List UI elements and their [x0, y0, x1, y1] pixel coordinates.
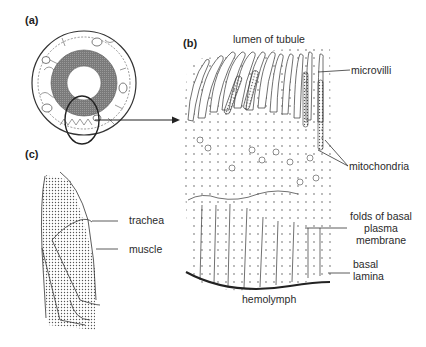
trachea-callout: trachea — [129, 214, 164, 226]
panel-label-a: (a) — [25, 14, 38, 26]
tubule-cross-section — [32, 31, 180, 144]
basal-lamina-line2: lamina — [353, 270, 384, 282]
folds-callout-line3: membrane — [345, 234, 417, 246]
panel-label-c: (c) — [25, 148, 38, 160]
epithelial-cell-detail — [182, 44, 350, 290]
mitochondria-callout: mitochondria — [349, 160, 409, 172]
muscle-callout: muscle — [129, 243, 162, 255]
lumen-label: lumen of tubule — [233, 33, 305, 45]
folds-callout: folds of basal plasma membrane — [345, 210, 417, 246]
panel-label-b: (b) — [183, 37, 197, 49]
folds-callout-line1: folds of basal — [345, 210, 417, 222]
microvilli-callout: microvilli — [351, 64, 391, 76]
basal-lamina-callout: basal lamina — [353, 258, 384, 282]
hemolymph-label: hemolymph — [242, 293, 296, 305]
basal-lamina-line1: basal — [353, 258, 384, 270]
trachea-muscle-drawing — [41, 172, 118, 330]
folds-callout-line2: plasma — [345, 222, 417, 234]
diagram-artwork — [0, 0, 426, 347]
